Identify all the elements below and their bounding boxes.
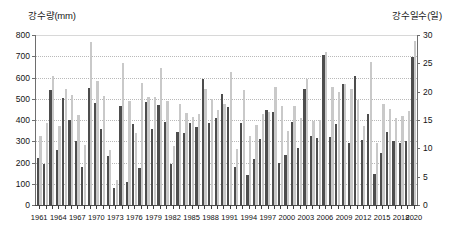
x-tick-2007	[331, 205, 332, 209]
bar-group-2015	[380, 35, 385, 205]
x-tick-2020	[414, 205, 415, 209]
bar-group-1985	[189, 35, 194, 205]
bar-precipitation-days-2017	[395, 118, 397, 205]
bar-precipitation-days-1969	[90, 42, 92, 205]
bar-precipitation-days-1981	[166, 101, 168, 205]
x-tick-1987	[204, 205, 205, 209]
left-tick-label-500: 500	[6, 94, 30, 104]
bar-group-1986	[195, 35, 200, 205]
bar-group-2016	[386, 35, 391, 205]
bar-precipitation-days-2000	[287, 131, 289, 205]
bar-group-2005	[316, 35, 321, 205]
bar-group-1962	[43, 35, 48, 205]
x-tick-label-1973: 1973	[107, 213, 124, 222]
bar-precipitation-days-1998	[274, 87, 276, 205]
bar-group-1967	[75, 35, 80, 205]
bar-group-1990	[221, 35, 226, 205]
x-tick-2016	[388, 205, 389, 209]
bar-precipitation-days-1978	[147, 97, 149, 205]
bar-precipitation-days-1972	[109, 150, 111, 205]
x-tick-1983	[179, 205, 180, 209]
right-axis-line	[417, 35, 418, 205]
bar-precipitation-days-2014	[376, 143, 378, 205]
x-tick-label-1964: 1964	[50, 213, 67, 222]
bar-group-1979	[151, 35, 156, 205]
bar-group-2003	[303, 35, 308, 205]
x-tick-2006	[325, 205, 326, 209]
x-tick-1989	[217, 205, 218, 209]
x-tick-label-2020: 2020	[405, 213, 422, 222]
bar-precipitation-days-1989	[217, 110, 219, 205]
x-tick-2014	[376, 205, 377, 209]
x-tick-1998	[274, 205, 275, 209]
bar-precipitation-days-1973	[116, 180, 118, 206]
x-tick-1967	[77, 205, 78, 209]
bar-group-1966	[68, 35, 73, 205]
bar-group-1961	[37, 35, 42, 205]
bar-group-1976	[132, 35, 137, 205]
x-tick-1966	[71, 205, 72, 209]
bar-group-2018	[399, 35, 404, 205]
left-tick-label-800: 800	[6, 30, 30, 40]
bar-group-1994	[246, 35, 251, 205]
x-tick-2017	[395, 205, 396, 209]
x-tick-label-2003: 2003	[298, 213, 315, 222]
bar-group-1982	[170, 35, 175, 205]
bar-group-1983	[176, 35, 181, 205]
x-tick-1995	[255, 205, 256, 209]
left-tick-label-600: 600	[6, 73, 30, 83]
x-tick-label-2000: 2000	[278, 213, 295, 222]
bar-precipitation-days-1996	[262, 114, 264, 205]
x-tick-1972	[109, 205, 110, 209]
bar-group-2000	[284, 35, 289, 205]
bar-precipitation-days-1988	[211, 99, 213, 205]
bar-precipitation-days-2002	[300, 118, 302, 205]
x-tick-2019	[407, 205, 408, 209]
x-tick-1990	[223, 205, 224, 209]
x-tick-1986	[198, 205, 199, 209]
bar-group-1992	[234, 35, 239, 205]
x-tick-1996	[261, 205, 262, 209]
bar-group-1965	[62, 35, 67, 205]
bar-precipitation-days-2012	[363, 126, 365, 205]
plot-area: 1961196419671970197319761979198219851988…	[36, 35, 417, 205]
bar-group-2010	[348, 35, 353, 205]
bar-group-1978	[145, 35, 150, 205]
left-axis-title: 강수량(mm)	[28, 8, 76, 22]
bar-group-1980	[157, 35, 162, 205]
bar-precipitation-days-2018	[401, 116, 403, 205]
bar-precipitation-days-1990	[223, 104, 225, 205]
bar-group-2013	[367, 35, 372, 205]
bar-group-1964	[56, 35, 61, 205]
x-tick-label-2012: 2012	[355, 213, 372, 222]
bar-precipitation-days-1965	[65, 89, 67, 205]
bar-precipitation-days-1985	[192, 117, 194, 205]
bar-precipitation-days-1993	[243, 90, 245, 205]
left-tick-label-0: 0	[6, 200, 30, 210]
bar-group-2017	[392, 35, 397, 205]
bar-precipitation-days-1986	[198, 114, 200, 205]
right-tick-label-5: 5	[423, 172, 447, 182]
x-tick-1981	[166, 205, 167, 209]
bar-precipitation-days-1984	[185, 113, 187, 205]
bar-group-1981	[164, 35, 169, 205]
bar-group-2009	[342, 35, 347, 205]
x-tick-label-2015: 2015	[374, 213, 391, 222]
right-tick-label-15: 15	[423, 115, 447, 125]
right-tick-label-25: 25	[423, 58, 447, 68]
bar-precipitation-days-1961	[39, 136, 41, 205]
bar-group-1969	[88, 35, 93, 205]
bar-group-1987	[202, 35, 207, 205]
x-tick-1979	[153, 205, 154, 209]
bar-group-1970	[94, 35, 99, 205]
x-axis-line	[35, 205, 418, 206]
bar-group-2014	[373, 35, 378, 205]
bar-precipitation-days-2003	[306, 79, 308, 205]
bar-group-1993	[240, 35, 245, 205]
bar-group-2011	[354, 35, 359, 205]
x-tick-1997	[268, 205, 269, 209]
x-tick-1962	[46, 205, 47, 209]
bar-precipitation-days-2001	[293, 106, 295, 205]
bar-precipitation-days-1966	[71, 95, 73, 205]
x-tick-2001	[293, 205, 294, 209]
